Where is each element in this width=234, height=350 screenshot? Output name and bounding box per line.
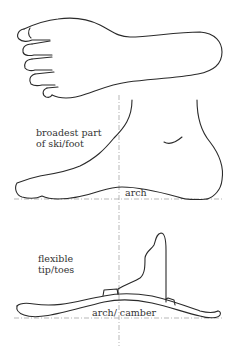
boot-shell — [118, 233, 166, 302]
arch-camber-label: arch/ camber — [92, 307, 156, 318]
foot-side-instep — [16, 100, 207, 200]
ski-with-boot — [17, 233, 221, 318]
second-toe-line — [32, 41, 50, 44]
flexible-tip-label-line2: tip/toes — [38, 264, 74, 275]
little-toe — [43, 88, 52, 97]
broadest-part-label-line1: broadest part — [36, 127, 102, 138]
second-toe — [23, 44, 52, 56]
big-toe-nail — [29, 28, 31, 38]
third-toe — [25, 59, 52, 71]
foot-top-view — [18, 18, 222, 98]
foot-top-outline — [24, 18, 222, 98]
third-toe-line — [32, 57, 52, 59]
ankle-bone — [164, 137, 182, 143]
broadest-part-label: broadest part of ski/foot — [36, 127, 102, 149]
fourth-toe-line — [35, 72, 54, 74]
flexible-tip-label-line1: flexible — [38, 253, 74, 264]
flexible-tip-label: flexible tip/toes — [38, 253, 74, 275]
broadest-part-label-line2: of ski/foot — [36, 138, 102, 149]
foot-side-heel — [197, 100, 223, 199]
big-toe — [18, 29, 50, 41]
foot-ski-diagram — [0, 0, 234, 350]
little-toe-line — [47, 87, 58, 88]
fourth-toe — [30, 74, 55, 86]
foot-arch-label: arch — [125, 187, 147, 198]
